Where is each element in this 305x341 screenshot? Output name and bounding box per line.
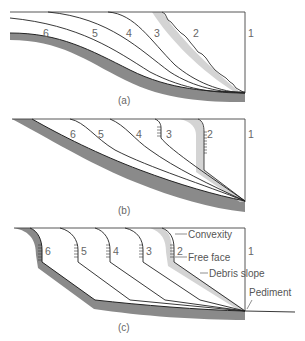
- caption-c: (c): [118, 322, 130, 333]
- label-stage-4: 4: [113, 245, 119, 257]
- free-face-hatching: [157, 127, 161, 136]
- annotation-debris-slope: Debris slope: [209, 268, 265, 279]
- ground-line: [245, 311, 295, 312]
- label-stage-4: 4: [136, 128, 142, 140]
- panel-a: 6 5 4 3 2 1 (a): [10, 12, 254, 106]
- label-stage-1: 1: [248, 128, 254, 140]
- label-stage-6: 6: [70, 128, 76, 140]
- label-stage-4: 4: [126, 27, 132, 39]
- label-stage-2: 2: [193, 27, 199, 39]
- label-stage-3: 3: [154, 27, 160, 39]
- caption-a: (a): [118, 95, 130, 106]
- label-stage-5: 5: [98, 128, 104, 140]
- stage-2-profile: [162, 12, 245, 93]
- label-stage-2: 2: [207, 128, 213, 140]
- label-stage-6: 6: [43, 27, 49, 39]
- free-face-hatching: [38, 245, 174, 260]
- label-stage-2: 2: [177, 245, 183, 257]
- label-stage-1: 1: [248, 27, 254, 39]
- debris-band: [152, 12, 240, 93]
- panel-b: 6 5 4 3 2 1 (b): [12, 119, 254, 216]
- annotation-pediment: Pediment: [249, 287, 291, 298]
- label-stage-1: 1: [248, 245, 254, 257]
- label-stage-5: 5: [81, 245, 87, 257]
- panel-c: 6 5 4 3 2 1 Convexity Free face Debris s…: [14, 228, 295, 333]
- slope-evolution-diagram: 6 5 4 3 2 1 (a) 6 5 4 3 2 1 (b): [0, 0, 305, 341]
- annotation-convexity: Convexity: [188, 229, 232, 240]
- label-stage-5: 5: [92, 27, 98, 39]
- label-stage-6: 6: [45, 245, 51, 257]
- label-stage-3: 3: [166, 128, 172, 140]
- label-stage-3: 3: [146, 245, 152, 257]
- annotation-free-face: Free face: [188, 252, 231, 263]
- caption-b: (b): [118, 205, 130, 216]
